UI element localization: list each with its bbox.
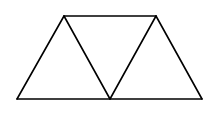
edge-DB [110, 16, 156, 99]
diagram-edges [17, 16, 202, 99]
trapezoid-diagram [0, 0, 217, 117]
edge-BE [156, 16, 202, 99]
edge-CA [17, 16, 64, 99]
edge-AD [64, 16, 110, 99]
